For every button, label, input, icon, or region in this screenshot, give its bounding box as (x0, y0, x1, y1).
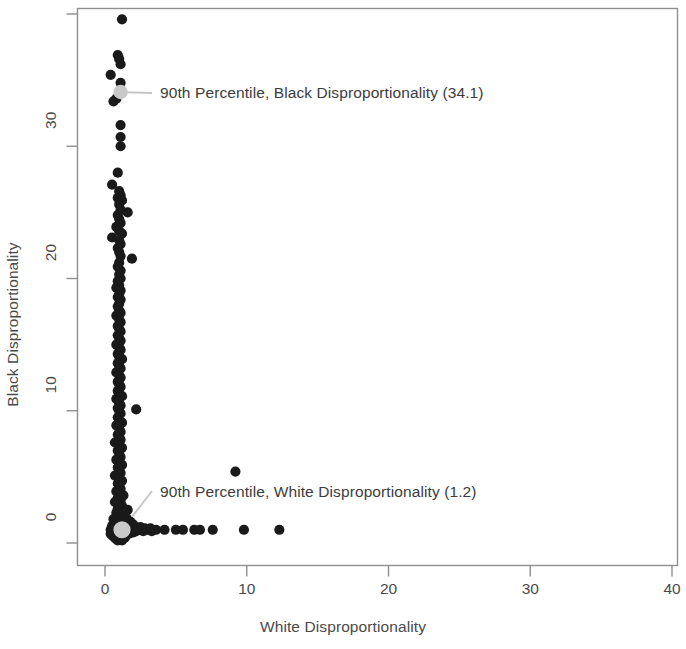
x-axis-title: White Disproportionality (0, 618, 686, 636)
y-tick-label: 20 (38, 240, 64, 266)
scatter-plot-figure: White Disproportionality Black Dispropor… (0, 0, 686, 649)
y-tick-label: 0 (38, 504, 64, 530)
data-point (115, 59, 125, 69)
data-point (117, 14, 127, 24)
data-point (195, 525, 205, 535)
data-point (115, 141, 125, 151)
data-point (115, 120, 125, 130)
x-axis-tick-marks (105, 566, 672, 577)
data-point (208, 525, 218, 535)
data-point (123, 207, 133, 217)
annotation-black-percentile: 90th Percentile, Black Disproportionalit… (160, 84, 484, 102)
annotation-white-percentile: 90th Percentile, White Disproportionalit… (160, 483, 477, 501)
data-point (113, 168, 123, 178)
y-tick-label: 30 (38, 107, 64, 133)
x-tick-label: 10 (227, 580, 267, 598)
data-point (127, 254, 137, 264)
x-tick-label: 20 (369, 580, 409, 598)
data-point (239, 525, 249, 535)
data-point (159, 525, 169, 535)
y-tick-label: 40 (38, 0, 64, 1)
data-point (131, 404, 141, 414)
data-point (178, 525, 188, 535)
data-point (147, 526, 157, 536)
data-point (274, 525, 284, 535)
x-tick-label: 40 (652, 580, 686, 598)
y-tick-label: 10 (38, 372, 64, 398)
x-tick-label: 30 (510, 580, 550, 598)
highlight-marker-black-90th-percentile (113, 85, 127, 99)
data-point (230, 466, 240, 476)
y-axis-tick-marks (67, 14, 78, 543)
x-tick-label: 0 (85, 580, 125, 598)
highlight-marker-white-90th-percentile (113, 521, 130, 538)
data-point (115, 132, 125, 142)
data-point (106, 70, 116, 80)
y-axis-title: Black Disproportionality (0, 0, 26, 649)
